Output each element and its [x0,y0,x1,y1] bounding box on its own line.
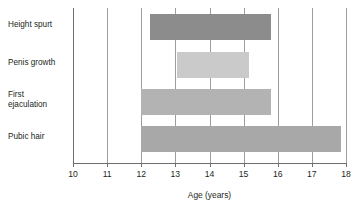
tick-mark-10 [73,163,74,167]
plot-area [73,8,346,163]
tick-label-15: 15 [232,169,256,179]
gridline-10 [73,8,74,163]
tick-label-16: 16 [266,169,290,179]
gridline-18 [346,8,347,163]
bar-penis-growth [177,52,249,78]
bar-chart: Height spurt Penis growth First ejaculat… [0,0,361,218]
tick-mark-14 [210,163,211,167]
tick-label-10: 10 [61,169,85,179]
tick-mark-15 [244,163,245,167]
category-label-height-spurt: Height spurt [8,20,72,30]
tick-mark-13 [175,163,176,167]
tick-mark-17 [312,163,313,167]
tick-mark-11 [107,163,108,167]
category-label-penis-growth: Penis growth [8,58,72,68]
tick-label-17: 17 [300,169,324,179]
category-label-pubic-hair: Pubic hair [8,132,72,142]
tick-label-11: 11 [95,169,119,179]
bar-height-spurt [150,14,271,40]
tick-label-12: 12 [129,169,153,179]
tick-label-14: 14 [198,169,222,179]
tick-label-13: 13 [163,169,187,179]
gridline-11 [107,8,108,163]
tick-mark-18 [346,163,347,167]
bar-pubic-hair [141,126,341,152]
tick-mark-12 [141,163,142,167]
tick-mark-16 [278,163,279,167]
category-label-first-ejaculation: First ejaculation [8,90,72,109]
x-axis-title: Age (years) [73,190,346,200]
tick-label-18: 18 [334,169,358,179]
bar-first-ejaculation [141,89,271,115]
